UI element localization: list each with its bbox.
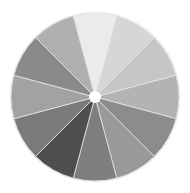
wheel-graphic — [0, 0, 190, 193]
wheel-center-hole — [89, 91, 101, 103]
grayscale-color-wheel — [0, 0, 190, 193]
